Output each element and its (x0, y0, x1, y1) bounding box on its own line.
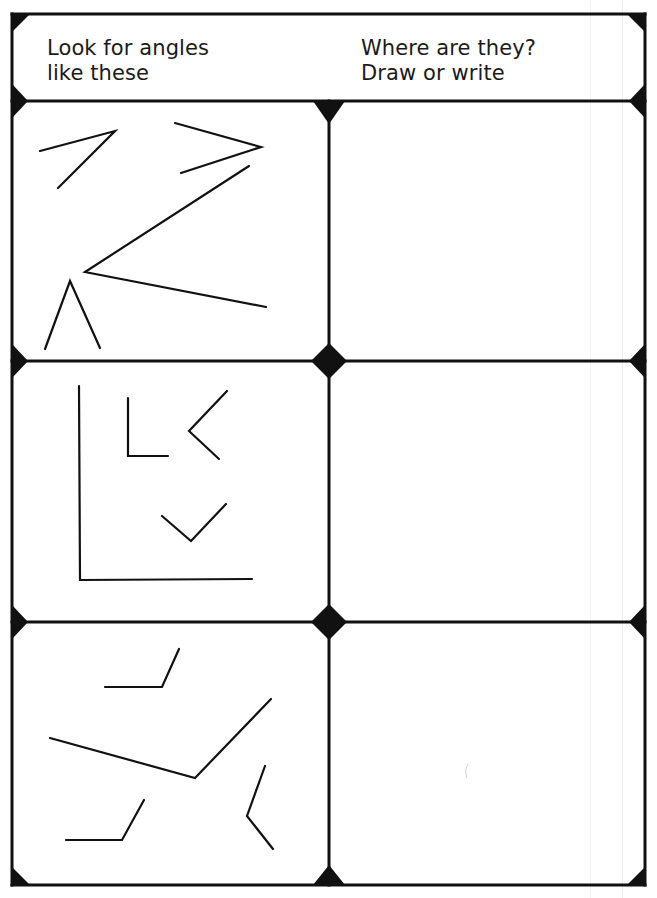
answer-cell-row-3[interactable] (331, 624, 643, 883)
answer-cell-row-2[interactable] (331, 363, 643, 620)
example-cell-obtuse-angles (14, 624, 327, 883)
header-right-line2: Draw or write (361, 61, 536, 86)
answer-cell-row-1[interactable] (331, 103, 643, 359)
example-cell-acute-angles (14, 103, 327, 359)
header-right-line1: Where are they? (361, 36, 536, 61)
header-instructions-right: Where are they? Draw or write (361, 36, 536, 86)
header-instructions-left: Look for angles like these (47, 36, 209, 86)
header-left-line2: like these (47, 61, 209, 86)
header-left-line1: Look for angles (47, 36, 209, 61)
example-cell-right-angles (14, 363, 327, 620)
